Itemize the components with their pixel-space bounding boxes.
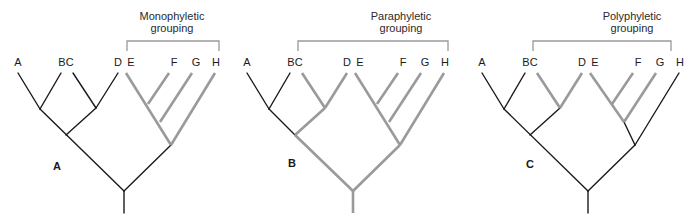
tip-label-d: D [343, 56, 351, 68]
highlighted-branches [126, 73, 215, 145]
tip-label-a: A [243, 56, 251, 68]
group-title-line1: Polyphyletic [603, 10, 662, 22]
tip-label-a: A [478, 56, 486, 68]
tip-label-h: H [676, 56, 684, 68]
tip-label-g: G [421, 56, 430, 68]
tip-label-d: D [114, 56, 122, 68]
tip-label-bc: BC [58, 56, 73, 68]
group-title-line2: grouping [611, 22, 654, 34]
panel-label: C [526, 158, 534, 170]
black-branches [482, 73, 679, 213]
group-title-line1: Monophyletic [140, 10, 205, 22]
highlighted-branches [537, 73, 656, 122]
panel-label: B [288, 157, 296, 169]
tip-label-a: A [14, 56, 22, 68]
grouping-bracket [127, 41, 219, 51]
tip-label-d: D [578, 56, 586, 68]
tip-label-bc: BC [522, 56, 537, 68]
black-branches [247, 73, 295, 135]
tip-label-h: H [212, 56, 220, 68]
tip-label-e: E [591, 56, 598, 68]
group-title-line1: Paraphyletic [371, 10, 432, 22]
tip-label-f: F [400, 56, 407, 68]
panel-a-monophyletic: Monophyletic grouping A BC D E F G H A [14, 10, 220, 213]
tip-label-f: F [171, 56, 178, 68]
grouping-bracket [298, 41, 448, 51]
panel-c-polyphyletic: Polyphyletic grouping A BC D E F G H C [478, 10, 684, 213]
group-title-line2: grouping [380, 22, 423, 34]
panel-b-paraphyletic: Paraphyletic grouping A BC D E F G H B [243, 10, 449, 213]
black-branches [18, 73, 171, 213]
tip-label-bc: BC [287, 56, 302, 68]
tip-label-g: G [656, 56, 665, 68]
panel-label: A [53, 160, 61, 172]
tip-label-g: G [192, 56, 201, 68]
tip-label-h: H [441, 56, 449, 68]
highlighted-branches [295, 73, 444, 213]
group-title-line2: grouping [151, 22, 194, 34]
tip-label-e: E [127, 56, 134, 68]
cladogram-figure: Monophyletic grouping A BC D E F G H A [0, 0, 693, 224]
grouping-bracket [533, 41, 671, 51]
tip-label-f: F [635, 56, 642, 68]
tip-label-e: E [356, 56, 363, 68]
